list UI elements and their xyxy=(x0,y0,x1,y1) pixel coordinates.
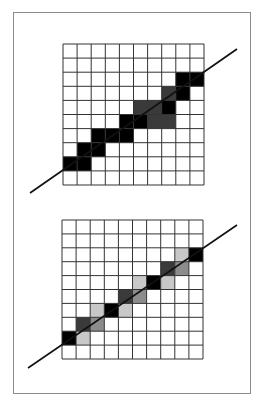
pixel-cell xyxy=(162,115,176,129)
pixel-cell xyxy=(175,262,189,276)
pixel-cell xyxy=(119,129,133,143)
pixel-cell xyxy=(76,317,90,331)
pixel-cell xyxy=(90,303,104,317)
pixel-cell xyxy=(162,100,176,114)
aliased-panel xyxy=(30,44,237,193)
pixel-cell xyxy=(176,86,190,100)
pixel-cell xyxy=(148,115,162,129)
pixel-cell xyxy=(91,129,105,143)
rasterization-diagram xyxy=(0,0,264,411)
antialiased-panel xyxy=(28,220,237,368)
pixel-cell xyxy=(161,276,175,290)
